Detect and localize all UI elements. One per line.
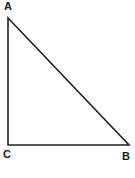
triangle-diagram — [0, 0, 135, 178]
vertex-label-a: A — [4, 1, 12, 12]
vertex-label-c: C — [3, 149, 11, 160]
vertex-label-b: B — [122, 151, 130, 162]
figure-canvas: A C B — [0, 0, 135, 178]
triangle-outline — [8, 18, 129, 145]
